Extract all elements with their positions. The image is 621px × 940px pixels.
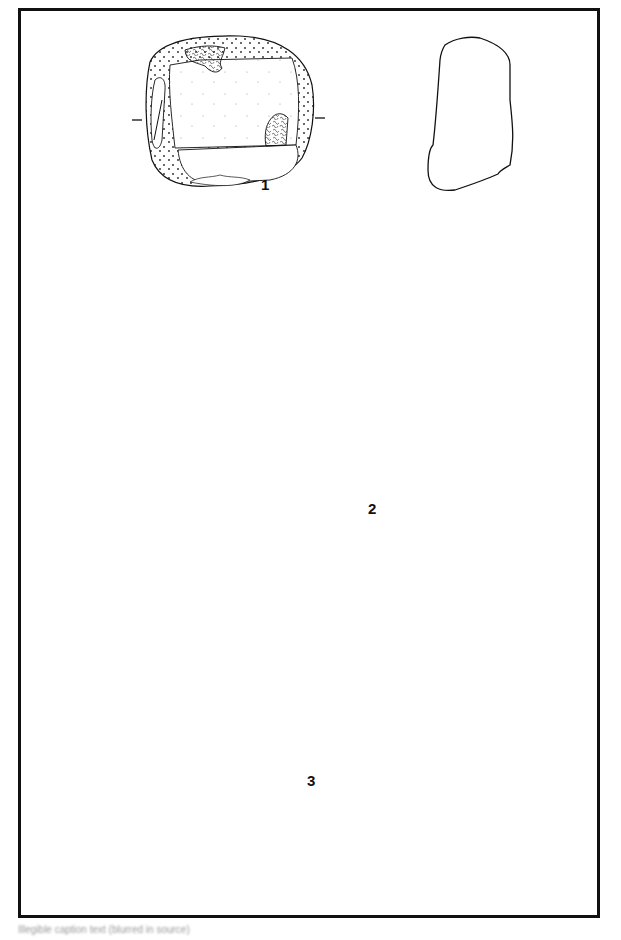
figure-1-front: [132, 36, 325, 186]
figure-number-1: 1: [261, 176, 269, 193]
figure-number-3: 3: [307, 772, 315, 789]
plate-caption: Illegible caption text (blurred in sourc…: [18, 924, 190, 935]
figure-1-side-profile: [428, 37, 513, 190]
artifact-drawings: [0, 0, 621, 940]
figure-number-2: 2: [368, 500, 376, 517]
